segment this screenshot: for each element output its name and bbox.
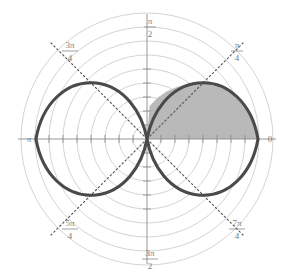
- theta-label-pi-over-4-num: π: [235, 40, 240, 50]
- theta-label-5pi-over-4-num: 5π: [65, 218, 75, 228]
- shaded-region-path: [147, 83, 258, 139]
- theta-label-pi-over-4-den: 4: [235, 53, 240, 63]
- theta-label-7pi-over-4-den: 4: [235, 231, 240, 241]
- theta-label-pi-over-2-num: π: [148, 16, 153, 26]
- polar-plot-figure: 0 π 4 π 2 3π 4 π 5π 4: [0, 0, 292, 278]
- theta-label-3pi-over-2-num: 3π: [145, 248, 155, 258]
- theta-label-3pi-over-4-num: 3π: [65, 40, 75, 50]
- polar-chart-canvas: 0 π 4 π 2 3π 4 π 5π 4: [0, 0, 292, 278]
- theta-label-pi-over-4: π 4: [231, 40, 243, 63]
- theta-label-3pi-over-2-den: 2: [148, 261, 153, 271]
- shaded-region: [147, 83, 258, 139]
- theta-label-pi-over-2-den: 2: [148, 29, 153, 39]
- theta-label-0-num: 0: [268, 134, 273, 144]
- theta-label-7pi-over-4-num: 7π: [232, 218, 242, 228]
- theta-label-3pi-over-4-den: 4: [68, 53, 73, 63]
- theta-label-5pi-over-4-den: 4: [68, 231, 73, 241]
- theta-label-5pi-over-4: 5π 4: [62, 218, 78, 241]
- theta-label-pi-num: π: [27, 134, 32, 144]
- theta-label-pi: π: [27, 134, 32, 144]
- theta-label-3pi-over-2: 3π 2: [142, 248, 158, 271]
- theta-label-0: 0: [268, 134, 273, 144]
